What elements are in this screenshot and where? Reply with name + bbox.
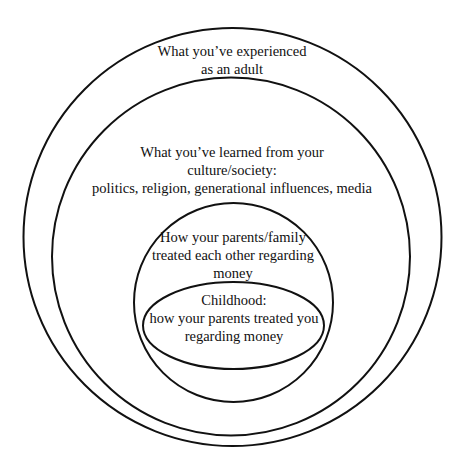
label-adult-experience: What you’ve experienced as an adult — [82, 42, 382, 78]
label-adult-line-2: as an adult — [82, 60, 382, 78]
label-culture-line-3: politics, religion, generational influen… — [62, 179, 402, 197]
label-childhood-line-1: Childhood: — [143, 291, 325, 309]
label-childhood-line-3: regarding money — [143, 327, 325, 345]
label-childhood: Childhood: how your parents treated you … — [143, 291, 325, 345]
label-adult-line-1: What you’ve experienced — [82, 42, 382, 60]
label-family-line-1: How your parents/family — [133, 228, 333, 246]
label-family-line-2: treated each other regarding — [133, 246, 333, 264]
label-culture-line-2: culture/society: — [62, 161, 402, 179]
label-family-line-3: money — [133, 264, 333, 282]
label-childhood-line-2: how your parents treated you — [143, 309, 325, 327]
label-culture-society: What you’ve learned from your culture/so… — [62, 143, 402, 197]
label-parents-family: How your parents/family treated each oth… — [133, 228, 333, 282]
label-culture-line-1: What you’ve learned from your — [62, 143, 402, 161]
